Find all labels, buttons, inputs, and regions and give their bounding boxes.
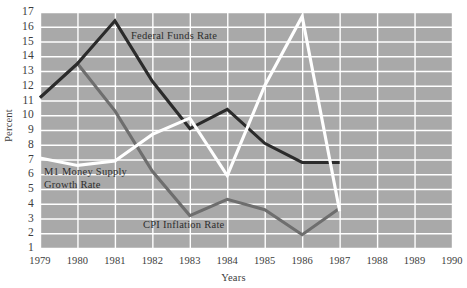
m1-money-supply-label-line1: M1 Money Supply [44, 166, 127, 177]
x-axis-tick-label: 1984 [217, 255, 238, 266]
x-axis-tick-label: 1989 [404, 255, 425, 266]
x-axis-title: Years [0, 272, 467, 283]
economic-indicators-line-chart: 1716151413121110987654321 19791980198119… [0, 0, 467, 288]
m1-money-supply-label-line2: Growth Rate [44, 179, 127, 192]
x-axis-tick-label: 1987 [329, 255, 350, 266]
x-axis-tick-label: 1980 [67, 255, 88, 266]
x-axis-tick-label: 1982 [142, 255, 163, 266]
x-axis-tick-label: 1979 [29, 255, 50, 266]
cpi-inflation-rate-label: CPI Inflation Rate [143, 219, 225, 232]
x-axis-tick-label: 1990 [441, 255, 462, 266]
x-axis-tick-label: 1981 [104, 255, 125, 266]
x-axis-tick-labels: 1979198019811982198319841985198619871988… [0, 0, 467, 288]
x-axis-tick-label: 1986 [291, 255, 312, 266]
y-axis-title: Percent [3, 96, 14, 156]
x-axis-tick-label: 1985 [254, 255, 275, 266]
federal-funds-rate-label: Federal Funds Rate [131, 30, 217, 43]
m1-money-supply-label: M1 Money Supply Growth Rate [44, 166, 127, 191]
x-axis-tick-label: 1988 [366, 255, 387, 266]
x-axis-tick-label: 1983 [179, 255, 200, 266]
